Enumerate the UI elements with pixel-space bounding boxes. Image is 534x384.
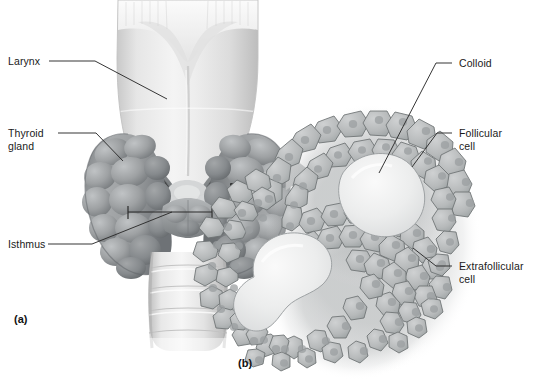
label-larynx: Larynx: [8, 55, 40, 68]
thyroid-figure: Larynx Thyroid gland Isthmus Colloid Fol…: [0, 0, 534, 384]
label-follicular-cell: Follicular cell: [459, 127, 502, 152]
figure-artwork: [0, 0, 534, 384]
label-thyroid-gland: Thyroid gland: [8, 127, 44, 152]
panel-tag-b: (b): [238, 357, 252, 369]
label-colloid: Colloid: [459, 57, 492, 70]
trachea: [146, 252, 230, 360]
panel-tag-a: (a): [14, 313, 27, 325]
label-extrafollicular-cell: Extrafollicular cell: [459, 260, 524, 285]
label-isthmus: Isthmus: [8, 238, 45, 251]
